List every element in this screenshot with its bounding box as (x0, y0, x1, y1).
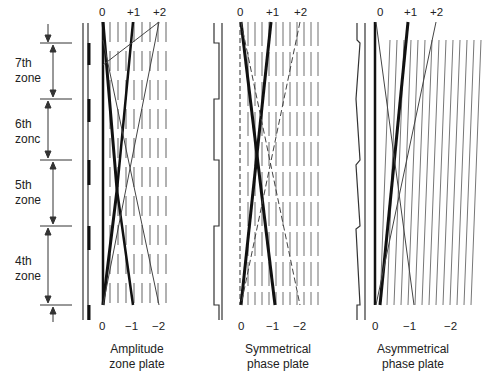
caption-line: Asymmetrical (358, 342, 468, 357)
order-label-bottom-0: 0 (99, 320, 105, 332)
zone-label-line: 5th (15, 178, 41, 193)
amplitude-zone-plate (83, 22, 166, 320)
order-label-bottom-0: 0 (372, 320, 378, 332)
order-label-top-0: 0 (377, 6, 383, 18)
symmetrical-phase-plate (214, 22, 318, 320)
order-label-top-plus2: +2 (153, 6, 166, 18)
zone-label-line: zonc (15, 132, 40, 147)
zone-label-line: zone (15, 269, 41, 284)
order-label-top-plus2: +2 (430, 6, 443, 18)
order-label-bottom-minus1: −1 (125, 320, 138, 332)
caption-line: zone plate (82, 357, 192, 372)
zone-label-line: zone (15, 71, 41, 86)
zone-label-7th: 7th zone (15, 56, 41, 86)
order-label-top-0: 0 (237, 6, 243, 18)
zone-label-5th: 5th zone (15, 178, 41, 208)
order-label-bottom-minus2: −2 (444, 320, 457, 332)
caption-line: phase plate (358, 357, 468, 372)
order-label-top-0: 0 (99, 6, 105, 18)
order-label-top-plus1: +1 (266, 6, 279, 18)
zone-dimension-markers (40, 24, 72, 322)
asymmetrical-phase-plate (356, 22, 481, 320)
caption-line: Symmetrical (223, 342, 333, 357)
plate-caption-asymmetrical: Asymmetrical phase plate (358, 342, 468, 372)
order-label-top-plus2: +2 (294, 6, 307, 18)
zone-label-6th: 6th zonc (15, 117, 40, 147)
order-label-bottom-minus1: −1 (403, 320, 416, 332)
plate-caption-amplitude: Amplitude zone plate (82, 342, 192, 372)
zone-label-line: 7th (15, 56, 41, 71)
order-label-top-plus1: +1 (127, 6, 140, 18)
order-label-top-plus1: +1 (404, 6, 417, 18)
zone-label-line: 6th (15, 117, 40, 132)
order-label-bottom-minus1: −1 (266, 320, 279, 332)
zone-label-line: zone (15, 193, 41, 208)
zone-label-4th: 4th zone (15, 254, 41, 284)
order-label-bottom-minus2: −2 (152, 320, 165, 332)
order-label-bottom-0: 0 (238, 320, 244, 332)
caption-line: Amplitude (82, 342, 192, 357)
caption-line: phase plate (223, 357, 333, 372)
plate-caption-symmetrical: Symmetrical phase plate (223, 342, 333, 372)
order-label-bottom-minus2: −2 (293, 320, 306, 332)
zone-label-line: 4th (15, 254, 41, 269)
